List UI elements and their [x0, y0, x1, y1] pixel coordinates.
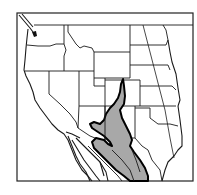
range-map — [0, 0, 197, 195]
pacific-coast — [24, 29, 92, 181]
juan-de-fuca — [19, 14, 33, 32]
idaho-west-border — [64, 25, 66, 71]
wyoming-border — [94, 52, 130, 78]
missouri-river — [168, 40, 180, 106]
sd-ne-border — [130, 65, 170, 70]
oklahoma-border — [135, 108, 178, 126]
ne-ks-border — [140, 86, 176, 106]
shaded-range — [90, 79, 148, 181]
wa-or-border — [27, 44, 64, 46]
idaho-montana-border — [68, 25, 94, 52]
ca-nv-border — [49, 71, 78, 128]
texas-coast — [162, 106, 182, 181]
dakotas-border — [130, 25, 168, 45]
